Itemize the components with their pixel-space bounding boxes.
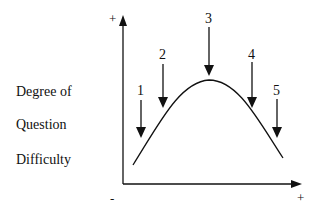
x-axis-arrowhead-icon <box>291 180 302 188</box>
arrow-2-label: 2 <box>159 47 166 62</box>
y-axis-arrowhead-icon <box>119 15 127 26</box>
arrow-4: 4 <box>247 47 257 108</box>
down-arrow-icon <box>158 97 168 108</box>
arrow-3-label: 3 <box>205 11 212 26</box>
difficulty-curve-diagram: + - + 1 2 3 4 5 <box>0 0 319 211</box>
difficulty-curve <box>133 80 283 165</box>
x-axis-minus-sign: - <box>110 191 114 206</box>
y-axis-plus-sign: + <box>109 11 116 26</box>
x-axis-plus-sign: + <box>297 190 304 205</box>
arrow-2: 2 <box>158 47 168 108</box>
arrow-1-label: 1 <box>137 83 144 98</box>
arrow-5: 5 <box>272 83 282 138</box>
arrow-5-label: 5 <box>273 83 280 98</box>
arrow-3: 3 <box>204 11 214 76</box>
arrow-4-label: 4 <box>248 47 255 62</box>
down-arrow-icon <box>136 127 146 138</box>
down-arrow-icon <box>204 65 214 76</box>
arrow-1: 1 <box>136 83 146 138</box>
down-arrow-icon <box>272 127 282 138</box>
